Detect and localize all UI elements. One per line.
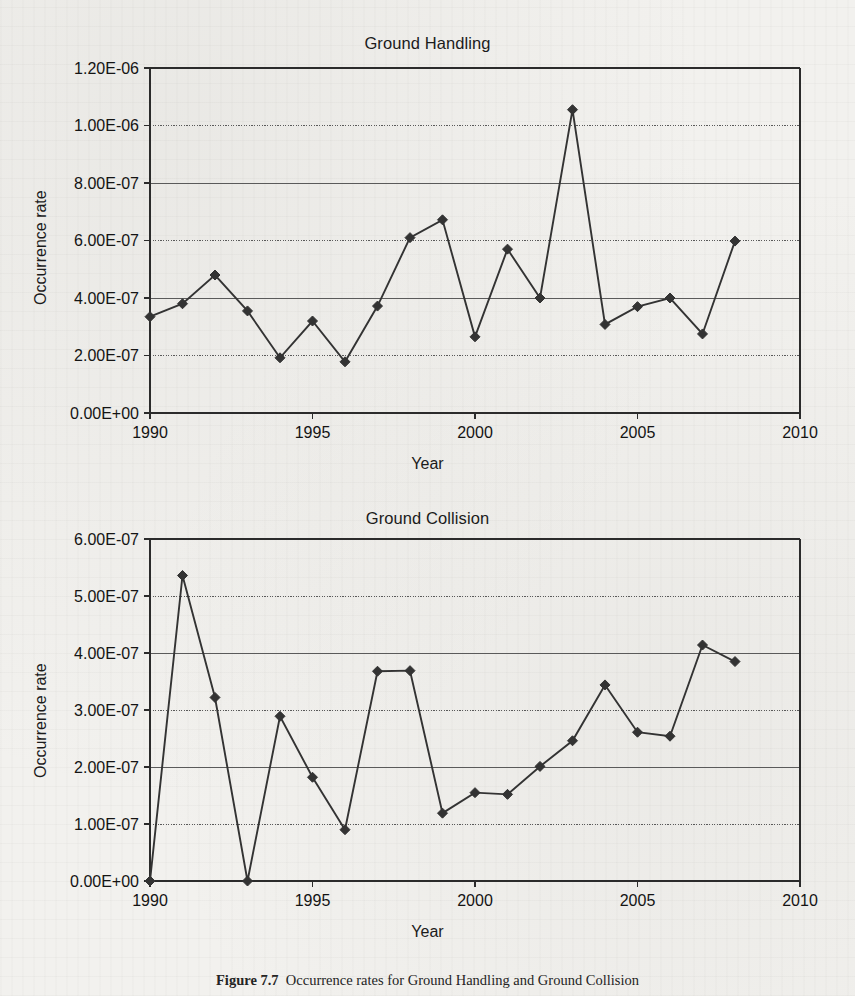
x-tick-label: 2000 bbox=[457, 424, 493, 441]
data-point-marker bbox=[535, 293, 545, 303]
data-point-marker bbox=[470, 332, 480, 342]
y-tick-label: 1.00E-07 bbox=[74, 816, 139, 833]
chart-ground-handling: Ground Handling Occurrence rate Year 0.0… bbox=[0, 0, 855, 490]
series-line bbox=[150, 110, 735, 362]
data-point-marker bbox=[178, 570, 188, 580]
data-point-marker bbox=[373, 666, 383, 676]
figure-caption-label: Figure 7.7 bbox=[216, 972, 279, 988]
y-tick-label: 1.00E-06 bbox=[74, 117, 139, 134]
figure-caption: Figure 7.7 Occurrence rates for Ground H… bbox=[0, 972, 855, 989]
x-tick-label: 2000 bbox=[457, 892, 493, 909]
data-point-marker bbox=[698, 640, 708, 650]
data-point-marker bbox=[568, 105, 578, 115]
y-tick-label: 0.00E+00 bbox=[70, 405, 139, 422]
x-tick-label: 1990 bbox=[132, 892, 168, 909]
y-tick-label: 1.20E-06 bbox=[74, 60, 139, 77]
y-tick-label: 2.00E-07 bbox=[74, 759, 139, 776]
data-point-marker bbox=[730, 657, 740, 667]
x-tick-label: 2010 bbox=[782, 892, 818, 909]
y-tick-label: 8.00E-07 bbox=[74, 175, 139, 192]
figure-7-7: Ground Handling Occurrence rate Year 0.0… bbox=[0, 0, 855, 996]
x-tick-label: 2005 bbox=[620, 892, 656, 909]
figure-caption-text: Occurrence rates for Ground Handling and… bbox=[286, 972, 639, 988]
data-point-marker bbox=[600, 319, 610, 329]
data-point-marker bbox=[145, 312, 155, 322]
data-point-marker bbox=[503, 244, 513, 254]
plot-area-ground-collision: 0.00E+001.00E-072.00E-073.00E-074.00E-07… bbox=[0, 490, 855, 960]
y-tick-label: 4.00E-07 bbox=[74, 645, 139, 662]
data-point-marker bbox=[145, 876, 155, 886]
data-point-marker bbox=[243, 876, 253, 886]
data-point-marker bbox=[438, 808, 448, 818]
data-point-marker bbox=[665, 731, 675, 741]
x-tick-label: 2005 bbox=[620, 424, 656, 441]
data-point-marker bbox=[405, 233, 415, 243]
data-point-marker bbox=[275, 711, 285, 721]
data-point-marker bbox=[308, 772, 318, 782]
x-tick-label: 1995 bbox=[295, 424, 331, 441]
data-point-marker bbox=[633, 302, 643, 312]
data-point-marker bbox=[470, 788, 480, 798]
data-point-marker bbox=[730, 236, 740, 246]
y-tick-label: 6.00E-07 bbox=[74, 531, 139, 548]
data-point-marker bbox=[438, 215, 448, 225]
chart-ground-collision: Ground Collision Occurrence rate Year 0.… bbox=[0, 490, 855, 960]
x-tick-label: 1995 bbox=[295, 892, 331, 909]
x-tick-label: 1990 bbox=[132, 424, 168, 441]
data-point-marker bbox=[210, 692, 220, 702]
y-tick-label: 3.00E-07 bbox=[74, 702, 139, 719]
y-tick-label: 6.00E-07 bbox=[74, 232, 139, 249]
series-line bbox=[150, 575, 735, 881]
y-tick-label: 4.00E-07 bbox=[74, 290, 139, 307]
data-point-marker bbox=[373, 301, 383, 311]
x-tick-label: 2010 bbox=[782, 424, 818, 441]
data-point-marker bbox=[405, 666, 415, 676]
data-point-marker bbox=[340, 825, 350, 835]
y-tick-label: 2.00E-07 bbox=[74, 347, 139, 364]
y-tick-label: 5.00E-07 bbox=[74, 588, 139, 605]
y-tick-label: 0.00E+00 bbox=[70, 873, 139, 890]
plot-area-ground-handling: 0.00E+002.00E-074.00E-076.00E-078.00E-07… bbox=[0, 0, 855, 490]
